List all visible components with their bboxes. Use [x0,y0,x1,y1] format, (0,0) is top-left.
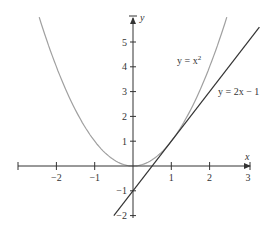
x-axis: −2−1123 x [18,151,250,183]
x-tick-label: 3 [245,172,250,183]
y-tick-label: 2 [122,111,127,122]
x-tick-label: −2 [51,172,62,183]
x-axis-label: x [244,151,250,162]
y-tick-label: 3 [122,86,127,97]
y-tick-label: 5 [122,37,127,48]
x-tick-label: 2 [207,172,212,183]
x-tick-label: 1 [169,172,174,183]
y-tick-label: 4 [122,61,127,72]
parabola-label: y = x2 [177,54,202,66]
chart: −2−1123 x −2−112345 y y = x2 y = 2x − 1 [0,0,274,235]
x-tick-label: −1 [89,172,100,183]
y-tick-label: 1 [122,136,127,147]
y-axis: −2−112345 y [116,12,145,221]
y-tick-label: −1 [116,185,127,196]
y-axis-label: y [139,12,145,23]
tangent-line-label: y = 2x − 1 [218,86,259,97]
y-tick-label: −2 [116,210,127,221]
